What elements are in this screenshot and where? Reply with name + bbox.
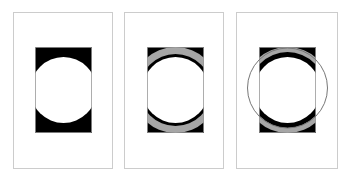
white-circle [143,57,209,123]
white-circle [255,57,321,123]
panel-2 [125,13,224,169]
panel-1 [14,13,113,169]
white-circle [31,57,97,123]
figure-canvas [0,0,346,182]
panel-3 [237,13,338,169]
